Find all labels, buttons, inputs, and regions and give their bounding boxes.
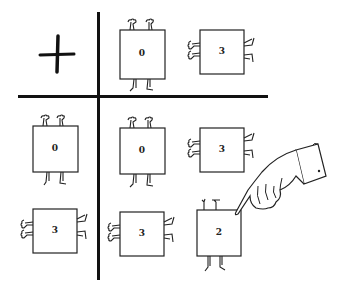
column-header-3-value: 3 [217,46,227,56]
row-header-3-value: 3 [50,225,60,235]
row-header-3: 3 [19,205,89,257]
plus-operator-icon [38,34,76,74]
cell-row2-col2-value: 2 [214,227,224,237]
addition-table-illustration: 0 3 0 0 [0,0,342,289]
table-horizontal-divider [18,95,268,98]
pointing-hand-icon [226,138,342,222]
cell-row1-col1-value: 0 [137,145,147,155]
column-header-3: 3 [186,26,256,78]
row-header-0-value: 0 [50,143,60,153]
table-vertical-divider [97,12,100,280]
cell-row2-col1: 3 [106,208,176,260]
cell-row1-col1: 0 [112,112,172,192]
cell-row2-col1-value: 3 [137,228,147,238]
column-header-0: 0 [112,14,172,92]
column-header-0-value: 0 [137,48,147,58]
row-header-0: 0 [25,110,85,190]
